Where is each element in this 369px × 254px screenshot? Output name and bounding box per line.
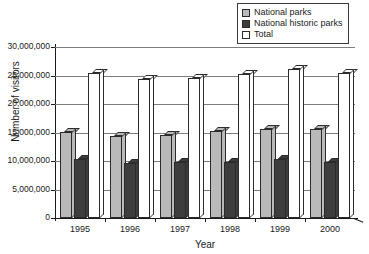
x-tick-mark: [305, 218, 306, 222]
bar-1995-series-2: [88, 73, 100, 218]
bar-1998-series-2-side-face: [250, 70, 254, 218]
bar-2000-series-2: [338, 73, 350, 218]
bar-1997-series-2: [188, 78, 200, 218]
legend-item-total: Total: [242, 29, 343, 40]
x-tick-mark: [255, 218, 256, 222]
bar-1995-series-0: [60, 132, 72, 218]
bar-1999-series-2: [288, 69, 300, 218]
legend-label-national-parks: National parks: [254, 7, 312, 18]
x-tick-label-1996: 1996: [108, 224, 152, 234]
bar-1999-series-0: [260, 129, 272, 218]
chart-legend: National parks National historic parks T…: [237, 3, 349, 44]
bar-1997-series-0: [160, 135, 172, 218]
bar-2000-series-2-side-face: [350, 69, 354, 218]
gridline: [55, 47, 355, 48]
bar-1995-series-1: [74, 159, 86, 218]
y-axis-title: Number of visitors: [10, 37, 21, 167]
x-tick-label-1997: 1997: [158, 224, 202, 234]
bar-1996-series-2: [138, 79, 150, 218]
bar-1996-series-2-side-face: [150, 75, 154, 218]
bar-1995-series-2-side-face: [100, 69, 104, 218]
bar-1996-series-0: [110, 136, 122, 218]
bar-2000-series-0: [310, 129, 322, 218]
bar-1997-series-2-side-face: [200, 74, 204, 218]
bar-1998-series-2: [238, 74, 250, 218]
legend-swatch-total: [242, 31, 250, 39]
x-tick-mark: [105, 218, 106, 222]
legend-label-national-historic-parks: National historic parks: [254, 18, 343, 29]
x-tick-label-1999: 1999: [258, 224, 302, 234]
bar-1999-series-2-side-face: [300, 65, 304, 218]
x-tick-mark: [155, 218, 156, 222]
x-tick-label-1995: 1995: [58, 224, 102, 234]
x-axis-tail: [351, 218, 364, 230]
x-axis-line: [55, 218, 358, 219]
legend-item-national-parks: National parks: [242, 7, 343, 18]
bar-1996-series-1: [124, 163, 136, 218]
legend-label-total: Total: [254, 29, 273, 40]
plot-area: [55, 47, 355, 218]
bar-1997-series-1: [174, 162, 186, 218]
bar-2000-series-1: [324, 162, 336, 218]
bar-1998-series-0: [210, 131, 222, 218]
legend-swatch-national-historic-parks: [242, 20, 250, 28]
visitors-bar-chart: National parks National historic parks T…: [0, 0, 369, 254]
bar-1999-series-1: [274, 159, 286, 218]
bar-1998-series-1: [224, 162, 236, 218]
y-tick-label: 5,000,000: [2, 185, 50, 194]
x-tick-label-2000: 2000: [308, 224, 352, 234]
legend-item-national-historic-parks: National historic parks: [242, 18, 343, 29]
legend-swatch-national-parks: [242, 9, 250, 17]
x-tick-mark: [205, 218, 206, 222]
x-axis-title: Year: [55, 239, 355, 250]
y-tick-label: 0: [2, 213, 50, 222]
x-tick-label-1998: 1998: [208, 224, 252, 234]
